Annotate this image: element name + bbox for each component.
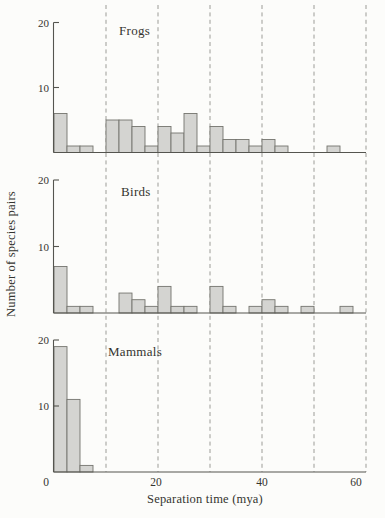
birds-bar [80, 306, 93, 313]
frogs-bar [158, 127, 171, 153]
birds-bar [275, 306, 288, 313]
frogs-bar [171, 133, 184, 153]
birds-bar [67, 306, 80, 313]
frogs-bar [210, 127, 223, 153]
x-axis-label: Separation time (mya) [147, 492, 263, 506]
bars [54, 114, 353, 473]
birds-bar [171, 306, 184, 313]
frogs-bar [145, 146, 158, 153]
frogs-bar [106, 120, 119, 153]
xtick-60: 60 [350, 476, 362, 488]
frogs-ytick-20: 20 [38, 17, 50, 29]
y-axis-label: Number of species pairs [4, 191, 18, 317]
frogs-bar [54, 114, 67, 153]
birds-bar [158, 286, 171, 313]
mammals-bar [54, 347, 67, 472]
mammals-bar [67, 399, 80, 472]
panel-title-birds: Birds [121, 184, 151, 199]
frogs-bar [132, 127, 145, 153]
frogs-bar [275, 146, 288, 153]
frogs-bar [262, 140, 275, 153]
birds-bar [262, 300, 275, 313]
xtick-20: 20 [150, 476, 162, 488]
frogs-bar [236, 140, 249, 153]
frogs-bar [197, 146, 210, 153]
frogs-bar [249, 146, 262, 153]
mammals-ytick-20: 20 [38, 334, 50, 346]
frogs-bar [223, 140, 236, 153]
birds-bar [249, 306, 262, 313]
birds-bar [119, 293, 132, 313]
birds-bar [145, 306, 158, 313]
birds-bar [132, 300, 145, 313]
xtick-0: 0 [43, 476, 49, 488]
birds-bar [210, 286, 223, 313]
frogs-bar [119, 120, 132, 153]
frogs-bar [80, 146, 93, 153]
birds-ytick-10: 10 [38, 241, 50, 253]
frogs-ytick-10: 10 [38, 82, 50, 94]
birds-bar [184, 306, 197, 313]
frogs-bar [327, 146, 340, 153]
birds-bar [301, 306, 314, 313]
frogs-bar [67, 146, 80, 153]
birds-ytick-20: 20 [38, 174, 50, 186]
panel-title-frogs: Frogs [119, 23, 150, 38]
birds-bar [340, 306, 353, 313]
gridlines [106, 5, 366, 472]
frogs-bar [184, 114, 197, 153]
birds-bar [54, 266, 67, 313]
panel-title-mammals: Mammals [108, 344, 162, 359]
mammals-ytick-10: 10 [38, 400, 50, 412]
chart-svg: 20 10 20 10 20 10 Frogs Birds Mammals 0 … [0, 0, 385, 518]
histogram-figure: 20 10 20 10 20 10 Frogs Birds Mammals 0 … [0, 0, 385, 518]
mammals-bar [80, 465, 93, 472]
birds-bar [223, 306, 236, 313]
xtick-40: 40 [256, 476, 268, 488]
